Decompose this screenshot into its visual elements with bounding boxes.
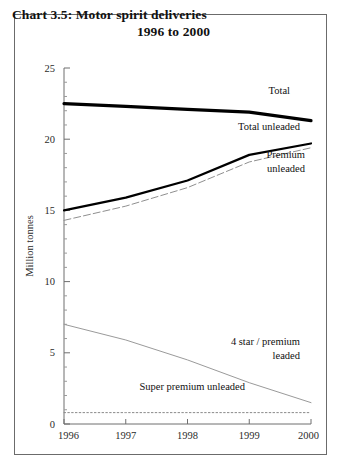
page-title: Chart 3.5: Motor spirit deliveries 1996 … <box>0 6 341 40</box>
chart-card-frame <box>14 14 327 455</box>
page-title-line2: 1996 to 2000 <box>0 23 341 40</box>
page-title-line1: Chart 3.5: Motor spirit deliveries <box>0 6 341 23</box>
